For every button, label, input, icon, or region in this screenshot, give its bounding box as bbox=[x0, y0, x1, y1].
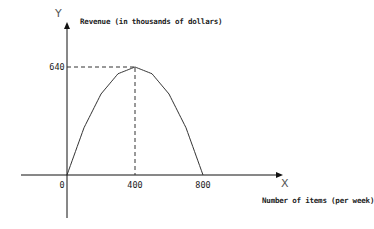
x-tick-400: 400 bbox=[127, 181, 142, 190]
x-axis-letter: X bbox=[281, 178, 289, 189]
y-axis-label: Revenue (in thousands of dollars) bbox=[80, 18, 222, 26]
x-tick-800: 800 bbox=[195, 181, 210, 190]
y-axis-arrow-icon bbox=[64, 22, 70, 29]
x-axis-label: Number of items (per week) bbox=[262, 197, 374, 205]
y-axis-letter: Y bbox=[55, 8, 62, 19]
y-tick-640: 640 bbox=[49, 63, 64, 72]
x-tick-0: 0 bbox=[59, 181, 64, 190]
